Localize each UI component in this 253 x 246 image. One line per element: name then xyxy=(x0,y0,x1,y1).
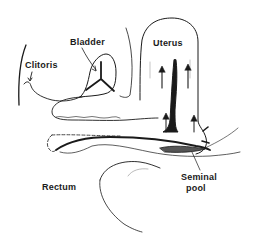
label-bladder: Bladder xyxy=(70,37,105,47)
diagram-artwork xyxy=(0,0,253,246)
label-seminal: Seminal xyxy=(181,172,217,182)
rectum-outline xyxy=(100,162,160,180)
bladder-lumen xyxy=(86,62,114,91)
label-pool: pool xyxy=(186,183,206,193)
label-rectum: Rectum xyxy=(42,182,76,192)
posterior-fornix-line xyxy=(205,128,238,148)
uterine-cavity xyxy=(163,60,178,132)
pubic-outline xyxy=(19,45,26,105)
bladder-pointer xyxy=(82,48,96,70)
seminal-pool-pointer xyxy=(192,152,200,170)
introitus-dashed xyxy=(47,135,56,152)
peritoneum-line xyxy=(120,28,132,97)
anatomy-diagram: Clitoris Bladder Uterus Rectum Seminal p… xyxy=(0,0,253,246)
label-clitoris: Clitoris xyxy=(25,60,58,70)
label-uterus: Uterus xyxy=(153,38,183,48)
rectum-inner xyxy=(128,169,148,176)
vagina-lower-wall xyxy=(60,145,240,157)
cervix-mark-1 xyxy=(203,127,208,131)
cervix-mark-2 xyxy=(202,141,209,143)
